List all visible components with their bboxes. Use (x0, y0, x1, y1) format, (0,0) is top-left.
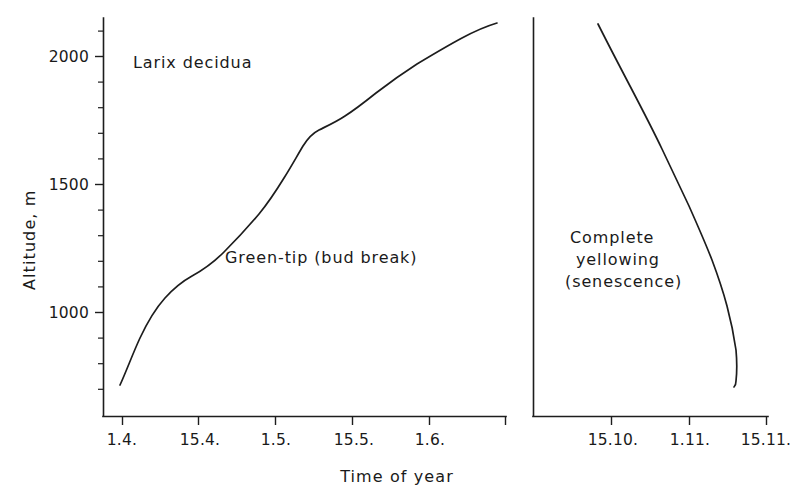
left-y-minor-ticks (98, 31, 104, 389)
left-x-tick-label-1: 15.4. (180, 431, 220, 449)
x-axis-title: Time of year (339, 467, 454, 486)
right-x-tick-label-0: 15.10. (588, 431, 639, 449)
senescence-annotation-line2: yellowing (576, 250, 660, 269)
left-x-tick-label-2: 1.5. (261, 431, 291, 449)
senescence-curve (598, 24, 737, 387)
green-tip-annotation: Green-tip (bud break) (225, 248, 417, 267)
left-x-ticks (123, 417, 506, 426)
right-panel: 15.10. 1.11. 15.11. Complete yellowing (… (533, 18, 791, 449)
left-x-tick-label-0: 1.4. (107, 431, 137, 449)
senescence-annotation-line1: Complete (570, 228, 654, 247)
left-panel: 2000 1500 1000 Altitude, m 1.4. 15.4. 1.… (20, 18, 506, 449)
y-axis-title: Altitude, m (20, 190, 39, 290)
y-tick-label-1500: 1500 (49, 176, 89, 194)
y-tick-label-2000: 2000 (49, 48, 89, 66)
left-x-tick-label-3: 15.5. (334, 431, 374, 449)
y-tick-label-1000: 1000 (49, 304, 89, 322)
left-y-major-ticks (95, 57, 104, 313)
right-x-tick-label-1: 1.11. (670, 431, 710, 449)
right-x-ticks (612, 417, 767, 426)
left-x-tick-label-4: 1.6. (415, 431, 445, 449)
green-tip-curve (120, 23, 497, 385)
phenology-figure: 2000 1500 1000 Altitude, m 1.4. 15.4. 1.… (0, 0, 805, 500)
chart-svg: 2000 1500 1000 Altitude, m 1.4. 15.4. 1.… (0, 0, 805, 500)
right-x-tick-label-2: 15.11. (741, 431, 792, 449)
species-annotation: Larix decidua (133, 53, 252, 72)
senescence-annotation-line3: (senescence) (565, 272, 682, 291)
